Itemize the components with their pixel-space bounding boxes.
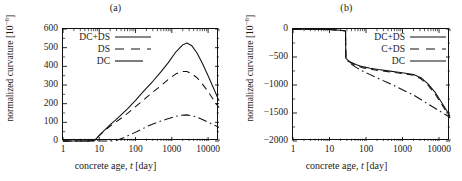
legend-label-dc-plus-ds: DC+DS — [66, 32, 114, 43]
panel-b-legend: DC+DS C+DS DC — [359, 31, 447, 67]
series-line-ds — [63, 72, 219, 141]
x-tick-label: 100 — [116, 145, 156, 154]
legend-swatch-dashed — [409, 45, 447, 53]
y-tick-label: −500 — [242, 52, 288, 61]
legend-swatch-solid — [114, 33, 152, 41]
legend-label-ds: DS — [66, 44, 114, 55]
y-tick-label: 100 — [12, 117, 58, 126]
legend-item-c-plus-ds: C+DS — [359, 43, 447, 55]
x-tick-label: 10000 — [419, 145, 459, 154]
x-tick-label: 10 — [310, 145, 350, 154]
legend-swatch-dashdot — [409, 57, 447, 65]
legend-item-dc-plus-ds: DC+DS — [359, 31, 447, 43]
panel-b-label: (b) — [231, 2, 462, 13]
x-tick-label: 10 — [79, 145, 119, 154]
legend-label-c-plus-ds: C+DS — [359, 44, 409, 55]
y-tick-label: 300 — [12, 80, 58, 89]
figure-two-panel-curvature-plots: (a) normalized curvature [10−6] DC+DS DS… — [0, 0, 462, 181]
legend-swatch-dashed — [114, 45, 152, 53]
x-tick-label: 10000 — [188, 145, 228, 154]
y-tick-label: 400 — [12, 61, 58, 70]
legend-label-dc-plus-ds: DC+DS — [359, 32, 409, 43]
legend-swatch-solid — [409, 33, 447, 41]
legend-label-dc: DC — [66, 56, 114, 67]
legend-item-dc-plus-ds: DC+DS — [66, 31, 152, 43]
y-tick-label: 500 — [12, 43, 58, 52]
y-tick-label: −1000 — [242, 80, 288, 89]
x-tick-label: 1000 — [152, 145, 192, 154]
panel-a: (a) normalized curvature [10−6] DC+DS DS… — [0, 0, 231, 181]
y-tick-label: 200 — [12, 99, 58, 108]
series-line-dc — [63, 115, 219, 141]
y-tick-label: −1500 — [242, 108, 288, 117]
legend-item-dc: DC — [359, 55, 447, 67]
panel-a-x-axis-title: concrete age, t [day] — [0, 160, 231, 171]
panel-a-label: (a) — [0, 2, 231, 13]
panel-b-x-axis-title: concrete age, t [day] — [231, 160, 462, 171]
y-tick-label: −2000 — [242, 136, 288, 145]
panel-b: (b) normalized curvature [10−6] DC+DS C+… — [231, 0, 462, 181]
x-tick-label: 1000 — [383, 145, 423, 154]
panel-a-legend: DC+DS DS DC — [66, 31, 152, 67]
x-tick-label: 1 — [273, 145, 313, 154]
y-tick-label: 0 — [242, 24, 288, 33]
x-tick-label: 100 — [346, 145, 386, 154]
legend-label-dc: DC — [359, 56, 409, 67]
y-tick-label: 600 — [12, 24, 58, 33]
legend-item-dc: DC — [66, 55, 152, 67]
y-tick-label: 0 — [12, 136, 58, 145]
legend-item-ds: DS — [66, 43, 152, 55]
x-tick-label: 1 — [43, 145, 83, 154]
legend-swatch-dashdot — [114, 57, 152, 65]
